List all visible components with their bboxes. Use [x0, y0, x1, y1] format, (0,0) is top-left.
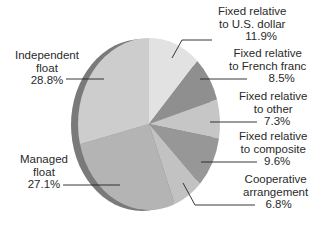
label-managed: Managed float 27.1%: [20, 153, 68, 191]
pie-slices: [78, 38, 220, 210]
label-cooperative: Cooperative arrangement 6.8%: [243, 173, 308, 211]
label-franc: Fixed relative to French franc 8.5%: [229, 47, 306, 85]
label-independent: Independent float 28.8%: [15, 49, 79, 87]
label-usd: Fixed relative to U.S. dollar 11.9%: [218, 5, 286, 43]
label-other: Fixed relative to other 7.3%: [239, 90, 307, 128]
label-composite: Fixed relative to composite 9.6%: [239, 130, 307, 168]
